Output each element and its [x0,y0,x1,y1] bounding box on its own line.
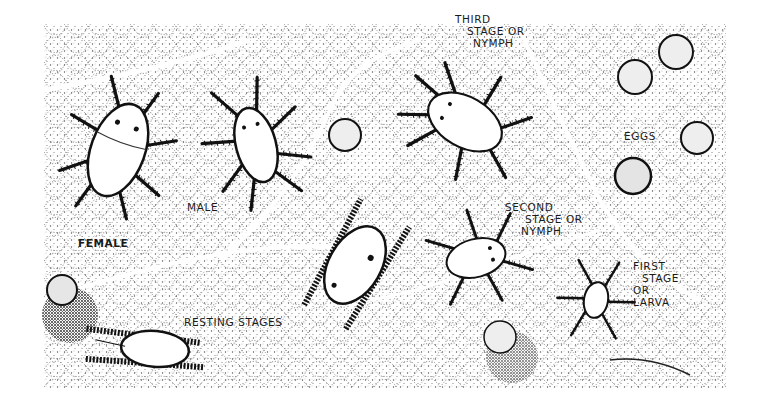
label-second-stage-nymph: SECOND STAGE OR NYMPH [505,201,583,237]
label-resting-stages: RESTING STAGES [184,316,283,328]
label-female: FEMALE [78,237,128,249]
label-eggs: EGGS [624,130,656,142]
mite-life-cycle-illustration [0,0,764,415]
label-first-stage-larva: FIRST STAGE OR LARVA [633,260,679,308]
label-male: MALE [187,201,218,213]
label-third-stage-nymph: THIRD STAGE OR NYMPH [455,13,525,49]
